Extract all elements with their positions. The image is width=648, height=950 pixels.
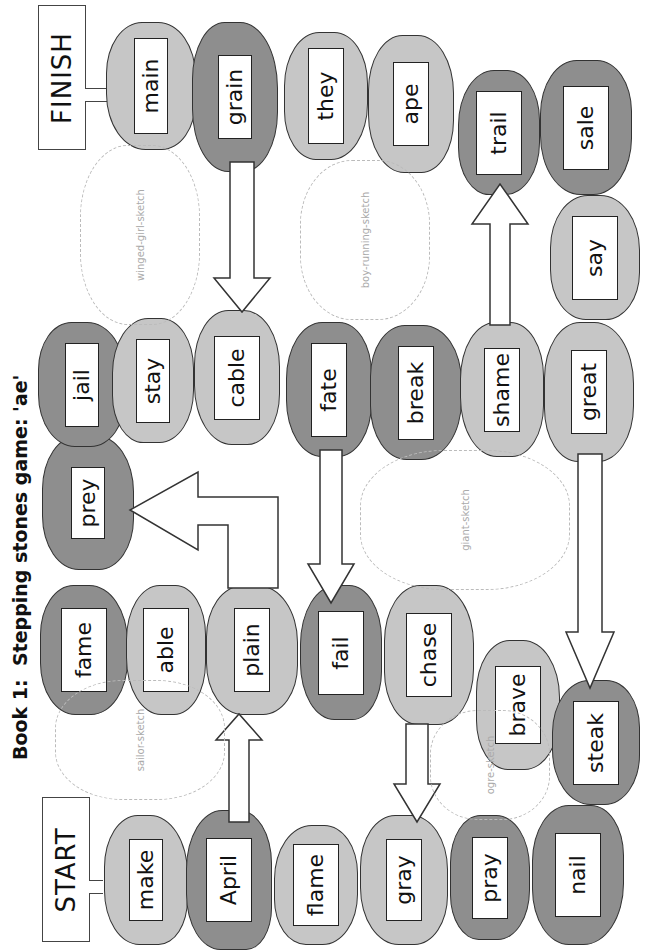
word-card: great bbox=[571, 350, 607, 434]
word-card: break bbox=[398, 346, 434, 440]
winged-girl-illustration: winged-girl-sketch bbox=[80, 145, 200, 325]
stone-jail[interactable]: sale bbox=[540, 60, 632, 195]
arrow-flame-to-nail bbox=[128, 460, 280, 590]
stone-brave[interactable]: they bbox=[284, 32, 368, 160]
word-card: stay bbox=[136, 339, 170, 423]
stone-able[interactable]: stay bbox=[112, 318, 194, 443]
finish-label: FINISH bbox=[47, 32, 77, 124]
stone-they[interactable]: steak bbox=[552, 680, 640, 805]
word-card: chase bbox=[406, 613, 452, 697]
word-card: make bbox=[129, 839, 163, 921]
word-card: jail bbox=[65, 343, 99, 427]
stone-april[interactable]: April bbox=[186, 810, 272, 950]
stone-plain[interactable]: cable bbox=[194, 310, 280, 445]
start-sign: START bbox=[42, 797, 90, 942]
word-card: trail bbox=[476, 91, 522, 175]
stone-break[interactable]: break bbox=[370, 325, 462, 460]
sailor-illustration: sailor-sketch bbox=[55, 680, 225, 800]
word-card: sale bbox=[563, 86, 609, 170]
word-card: steak bbox=[573, 701, 619, 785]
arrow-fate-to-prey bbox=[470, 182, 530, 327]
word-card: prey bbox=[71, 467, 105, 539]
stone-ape[interactable]: nail bbox=[532, 805, 624, 945]
start-sign-post bbox=[89, 880, 103, 894]
word-card: fail bbox=[318, 611, 364, 695]
stone-steak[interactable]: ape bbox=[368, 35, 454, 173]
stone-flame[interactable]: plain bbox=[206, 585, 298, 715]
stone-fail[interactable]: grain bbox=[192, 22, 278, 172]
word-card: fate bbox=[311, 343, 347, 437]
stone-stay[interactable]: say bbox=[550, 195, 640, 320]
worksheet-title: Book 1: Stepping stones game: 'ae' bbox=[5, 380, 35, 760]
stone-chase[interactable]: main bbox=[106, 22, 196, 150]
word-card: nail bbox=[555, 833, 601, 917]
word-card: ape bbox=[393, 62, 429, 146]
start-label: START bbox=[51, 827, 81, 912]
stone-sale[interactable]: gray bbox=[360, 815, 448, 945]
ogre-illustration: ogre-sketch bbox=[430, 710, 550, 820]
arrow-fail-to-plain bbox=[212, 160, 272, 315]
word-card: plain bbox=[234, 608, 270, 692]
finish-sign: FINISH bbox=[38, 5, 86, 150]
word-card: cable bbox=[214, 336, 260, 420]
stone-shame[interactable]: fate bbox=[286, 322, 372, 457]
word-card: gray bbox=[386, 839, 422, 921]
stone-fate[interactable]: shame bbox=[460, 322, 544, 457]
stone-say[interactable]: flame bbox=[274, 825, 358, 945]
word-card: flame bbox=[293, 844, 339, 926]
giant-illustration: giant-sketch bbox=[360, 450, 570, 590]
running-boy-illustration: boy-running-sketch bbox=[300, 160, 430, 320]
stone-trail[interactable]: pray bbox=[450, 815, 530, 940]
stone-prey[interactable]: trail bbox=[458, 70, 540, 195]
word-card: fame bbox=[61, 608, 107, 692]
word-card: say bbox=[572, 216, 618, 300]
arrow-shame-to-great bbox=[306, 448, 356, 606]
stone-nail[interactable]: prey bbox=[42, 435, 134, 570]
word-card: pray bbox=[472, 837, 508, 919]
stone-main[interactable]: chase bbox=[384, 585, 474, 725]
word-card: April bbox=[206, 838, 252, 922]
word-card: shame bbox=[484, 348, 520, 432]
word-card: they bbox=[308, 48, 344, 144]
stone-cable[interactable]: great bbox=[544, 322, 634, 462]
stone-make[interactable]: make bbox=[104, 815, 188, 945]
word-card: grain bbox=[218, 55, 252, 139]
word-card: main bbox=[134, 38, 168, 134]
arrow-cable-to-they bbox=[564, 452, 616, 690]
